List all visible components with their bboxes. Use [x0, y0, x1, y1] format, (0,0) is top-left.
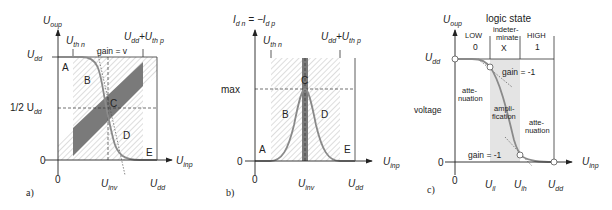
panel-a: Uoup Uth n Udd+Uth p gain = v Udd 1/2 Ud… [10, 15, 193, 199]
panel-c: Uoup logic state LOW 0 indeter- minate X… [414, 13, 599, 196]
x-axis-label: Uinp [383, 156, 400, 170]
zero-x-label: 0 [55, 174, 61, 185]
x-axis-label: Uinp [582, 156, 599, 170]
uinv-label: Uinv [101, 178, 118, 191]
panel-c-tag: c) [427, 184, 435, 196]
zero-x-label: 0 [452, 175, 458, 186]
y-axis-label: Id n = −Id p [233, 14, 275, 28]
udd-x-label: Udd [150, 178, 166, 191]
region-a: A [259, 144, 266, 155]
point-end [551, 159, 557, 165]
hatched-upper-right [143, 57, 157, 88]
uthn-label: Uth n [66, 35, 85, 48]
gain-label: gain = v [97, 46, 128, 56]
udd-uthp-label: Udd+Uth p [321, 31, 361, 45]
state-low-value: 0 [473, 42, 478, 52]
point-uil [487, 64, 493, 70]
udd-x-label: Udd [548, 179, 564, 192]
gain-bottom-label: gain = -1 [468, 150, 502, 160]
uthn-label: Uth n [263, 35, 282, 48]
uih-label: Uih [514, 179, 527, 192]
uinv-label: Uinv [298, 178, 315, 191]
y-axis-label: Uoup [443, 14, 462, 28]
region-b: B [84, 75, 91, 86]
panel-b: Id n = −Id p Uth n Udd+Uth p max 0 0 Uin… [221, 14, 400, 199]
udd-x-label: Udd [348, 178, 364, 191]
region-d: D [321, 109, 328, 120]
udd-y-label: Udd [27, 49, 43, 62]
panel-a-tag: a) [26, 187, 34, 199]
zero-y-label: 0 [438, 157, 444, 168]
state-indeterminate-2: minate [496, 33, 519, 42]
region-a: A [62, 62, 69, 73]
max-label: max [221, 84, 240, 95]
uil-label: Uil [485, 179, 496, 192]
voltage-label: voltage [414, 105, 442, 115]
region-d: D [123, 130, 130, 141]
region-e: E [344, 144, 351, 155]
attenuation-right-2: nuation [525, 126, 550, 135]
amplification-2: fication [492, 112, 516, 121]
cmos-inverter-figure: Uoup Uth n Udd+Uth p gain = v Udd 1/2 Ud… [0, 0, 612, 210]
hatched-lower-left [58, 128, 73, 160]
attenuation-left-2: nuation [458, 94, 483, 103]
half-udd-label: 1/2 Udd [10, 102, 43, 115]
gain-top-label: gain = -1 [502, 67, 536, 77]
state-x-value: X [501, 43, 507, 53]
region-c: C [110, 98, 117, 109]
udd-uthp-label: Udd+Uth p [124, 31, 164, 45]
y-axis-label: Uoup [43, 15, 62, 29]
region-e: E [146, 147, 153, 158]
point-udd [452, 56, 458, 62]
point-uih [517, 152, 523, 158]
udd-y-label: Udd [425, 52, 441, 65]
state-high-value: 1 [535, 42, 540, 52]
region-b: B [282, 109, 289, 120]
logic-state-title: logic state [486, 13, 531, 24]
state-high: HIGH [527, 31, 546, 40]
zero-y-label: 0 [40, 155, 46, 166]
zero-y-label: 0 [237, 156, 243, 167]
zero-x-label: 0 [252, 174, 258, 185]
x-axis-label: Uinp [176, 155, 193, 169]
panel-b-tag: b) [226, 187, 234, 199]
region-c: C [301, 75, 308, 86]
state-low: LOW [465, 31, 483, 40]
